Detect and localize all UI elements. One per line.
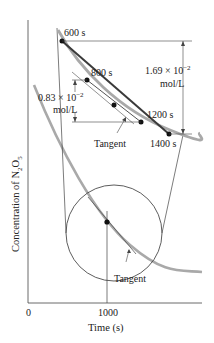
x-tick-1000: 1000 [98,307,118,318]
label-big-delta-line2: mol/L [160,78,184,89]
label-800s: 800 s [91,67,113,78]
label-small-delta-line2: mol/L [53,104,77,115]
secant-600-1400 [62,41,169,134]
arrowhead-icon [73,80,77,85]
label-tangent-inset: Tangent [94,138,126,149]
magnifier-line-right [162,135,183,233]
inset-tangent-arrow [117,119,125,133]
y-axis-label: Concentration of N2O5 [10,156,24,252]
point-t1000 [104,219,109,224]
arrowhead-icon [127,249,131,253]
label-1200s: 1200 s [147,109,174,120]
magnifier-circle [66,185,162,281]
label-600s: 600 s [64,27,86,38]
arrowhead-icon [181,41,185,46]
x-tick-0: 0 [26,307,31,318]
label-tangent-circle: Tangent [114,273,146,284]
point-1000s-inset [112,103,117,108]
x-axis-label: Time (s) [88,322,124,334]
label-1400s: 1400 s [150,138,177,149]
reaction-rate-chart: 600 s 800 s 1200 s 1400 s 1.69 × 10−2 mo… [0,0,214,343]
arrowhead-icon [73,117,77,122]
label-big-delta-line1: 1.69 × 10−2 [145,64,191,76]
circle-tangent-line [88,197,136,254]
magnifier-line-left [57,28,66,233]
label-small-delta-line1: 0.83 × 10−2 [38,91,84,103]
